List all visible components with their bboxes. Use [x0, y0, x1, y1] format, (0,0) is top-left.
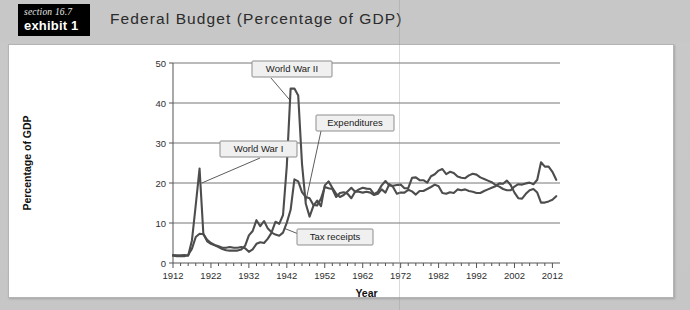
annotation-tax-label: Tax receipts: [310, 231, 361, 242]
x-tick-label-1922: 1922: [200, 270, 221, 281]
annotation-ww1-label: World War I: [234, 143, 284, 154]
y-tick-label-40: 40: [155, 98, 166, 109]
federal-budget-line-chart: 01020304050 1912192219321942195219621972…: [9, 45, 675, 299]
x-axis-title: Year: [355, 287, 377, 299]
annotation-tax-receipts: Tax receipts: [297, 229, 373, 245]
page-seam-artifact: [399, 0, 400, 310]
chart-panel: 01020304050 1912192219321942195219621972…: [8, 44, 674, 298]
y-axis-tick-labels: 01020304050: [155, 58, 166, 269]
x-tick-label-1942: 1942: [276, 270, 297, 281]
x-tick-label-1932: 1932: [238, 270, 259, 281]
leader-expenditures: [306, 131, 321, 201]
plot-area: 01020304050 1912192219321942195219621972…: [9, 45, 675, 299]
annotation-expenditures-label: Expenditures: [327, 117, 383, 128]
y-tick-label-30: 30: [155, 138, 166, 149]
x-tick-label-1962: 1962: [352, 270, 373, 281]
section-badge: section 16.7 exhibit 1: [18, 4, 90, 36]
leader-ww1: [202, 158, 260, 183]
x-tick-label-1982: 1982: [428, 270, 449, 281]
annotation-ww2-label: World War II: [266, 63, 318, 74]
x-tick-label-2012: 2012: [542, 270, 563, 281]
annotation-world-war-2: World War II: [252, 61, 332, 77]
y-axis-title: Percentage of GDP: [21, 115, 33, 210]
section-number-label: section 16.7: [24, 7, 72, 17]
x-axis-tick-labels: 1912192219321942195219621972198219922002…: [162, 270, 563, 281]
annotation-world-war-1: World War I: [220, 141, 297, 157]
x-tick-label-1912: 1912: [162, 270, 183, 281]
y-tick-label-0: 0: [161, 258, 166, 269]
x-tick-label-1972: 1972: [390, 270, 411, 281]
exhibit-figure: section 16.7 exhibit 1 Federal Budget (P…: [0, 0, 690, 310]
x-tick-label-2002: 2002: [504, 270, 525, 281]
x-tick-label-1952: 1952: [314, 270, 335, 281]
y-tick-label-10: 10: [155, 218, 166, 229]
exhibit-title: Federal Budget (Percentage of GDP): [110, 10, 402, 28]
exhibit-number-label: exhibit 1: [24, 18, 79, 33]
y-tick-label-50: 50: [155, 58, 166, 69]
x-tick-label-1992: 1992: [466, 270, 487, 281]
annotation-expenditures: Expenditures: [316, 115, 394, 131]
exhibit-header: section 16.7 exhibit 1 Federal Budget (P…: [0, 0, 690, 42]
y-tick-label-20: 20: [155, 178, 166, 189]
leader-ww2: [271, 78, 291, 101]
